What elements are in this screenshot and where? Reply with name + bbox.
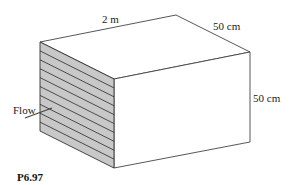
figure-id: P6.97 (17, 171, 43, 183)
length-label: 2 m (102, 13, 119, 25)
flow-label: Flow (13, 104, 36, 116)
height-label: 50 cm (253, 92, 280, 104)
depth-label: 50 cm (213, 20, 240, 32)
box-diagram (0, 0, 295, 185)
